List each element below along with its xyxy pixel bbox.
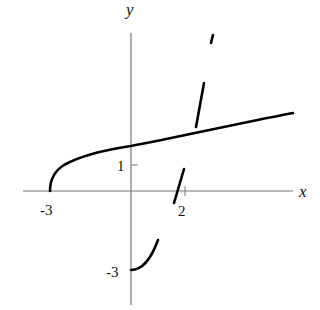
inverse-curve-segment-3 [196, 83, 204, 127]
inverse-curve-segment-1 [131, 240, 158, 270]
x-tick-label-2: 2 [178, 203, 186, 219]
y-tick-label-neg3: -3 [106, 264, 119, 280]
y-tick-label-1: 1 [117, 158, 125, 174]
sqrt-curve [50, 113, 293, 191]
function-graph: x y -3 2 1 -3 [0, 0, 320, 310]
y-axis-label: y [124, 0, 134, 19]
inverse-curve-segment-2 [174, 169, 184, 203]
x-axis-label: x [298, 182, 307, 201]
inverse-curve-segment-4 [211, 35, 213, 43]
x-tick-label-neg3: -3 [40, 202, 53, 218]
